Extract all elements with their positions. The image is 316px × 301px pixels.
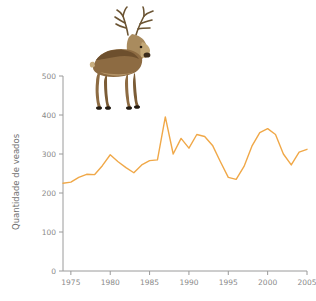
line-chart: 0100200300400500197519801985199019952000…	[0, 0, 316, 301]
ticks-group	[59, 76, 307, 275]
y-tick-label: 100	[42, 228, 57, 237]
y-axis-title: Quantidade de veados	[11, 133, 21, 230]
y-tick-label: 500	[42, 72, 57, 81]
data-series-line	[63, 117, 307, 183]
x-tick-label: 2005	[297, 278, 316, 287]
x-tick-label: 1995	[219, 278, 238, 287]
x-tick-label: 1980	[101, 278, 120, 287]
y-tick-label: 300	[42, 150, 57, 159]
x-tick-label: 1990	[179, 278, 198, 287]
x-tick-label: 1985	[140, 278, 159, 287]
tick-labels-group: 0100200300400500197519801985199019952000…	[42, 72, 316, 287]
y-tick-label: 0	[51, 267, 56, 276]
y-tick-label: 200	[42, 189, 57, 198]
chart-figure: 0100200300400500197519801985199019952000…	[0, 0, 316, 301]
x-tick-label: 2000	[258, 278, 277, 287]
x-tick-label: 1975	[61, 278, 80, 287]
axes-group	[63, 76, 307, 271]
y-tick-label: 400	[42, 111, 57, 120]
